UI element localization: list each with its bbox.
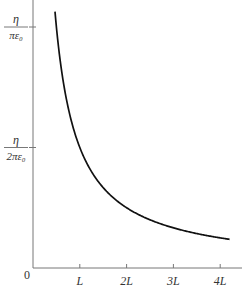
y-tick-denominator-2: πε₀ (9, 29, 23, 41)
x-tick-label-3: 3L (166, 274, 180, 288)
y-tick-numerator-2: η (13, 12, 19, 26)
curve-group (55, 12, 230, 240)
x-tick-label-2: 2L (120, 274, 133, 288)
chart: L2L3L4Lη2πε₀ηπε₀ x 0 (0, 0, 242, 289)
series-line-field (55, 12, 230, 240)
axes (33, 0, 242, 268)
y-tick-numerator-1: η (13, 133, 19, 147)
x-tick-label-1: L (75, 274, 83, 288)
ticks: L2L3L4Lη2πε₀ηπε₀ (4, 12, 227, 288)
x-tick-label-4: 4L (214, 274, 227, 288)
origin-label: 0 (24, 268, 30, 282)
y-tick-denominator-1: 2πε₀ (6, 150, 25, 162)
